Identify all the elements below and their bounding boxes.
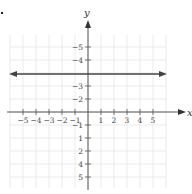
y-axis-arrow-icon bbox=[85, 20, 91, 28]
coordinate-plane: x y −5−4−3−2−112345 5421−1−2−3−4−5 bbox=[0, 0, 192, 194]
x-tick-label: −2 bbox=[56, 116, 67, 125]
x-tick-label: 4 bbox=[138, 116, 143, 125]
x-axis-label: x bbox=[187, 107, 192, 118]
x-tick-label: −3 bbox=[43, 116, 54, 125]
y-tick-label: −4 bbox=[72, 56, 83, 65]
y-axis-label: y bbox=[83, 7, 90, 18]
y-tick-label: −1 bbox=[72, 121, 83, 130]
x-ticks: −5−4−3−2−112345 bbox=[17, 109, 155, 125]
y-tick-label: 2 bbox=[78, 147, 83, 156]
y-tick-label: −2 bbox=[72, 95, 83, 104]
x-tick-label: −5 bbox=[17, 116, 28, 125]
y-tick-label: 1 bbox=[78, 134, 83, 143]
x-tick-label: −4 bbox=[30, 116, 41, 125]
x-axis-arrow-icon bbox=[178, 109, 186, 115]
x-tick-label: 3 bbox=[125, 116, 130, 125]
y-tick-label: −5 bbox=[72, 43, 83, 52]
y-axis: y bbox=[83, 7, 91, 190]
x-tick-label: 1 bbox=[99, 116, 104, 125]
x-tick-label: 5 bbox=[151, 116, 156, 125]
x-tick-label: 2 bbox=[112, 116, 117, 125]
bullet-mark bbox=[1, 12, 3, 14]
y-tick-label: 4 bbox=[78, 160, 83, 169]
y-tick-label: −3 bbox=[72, 82, 83, 91]
y-tick-label: 5 bbox=[78, 173, 83, 182]
